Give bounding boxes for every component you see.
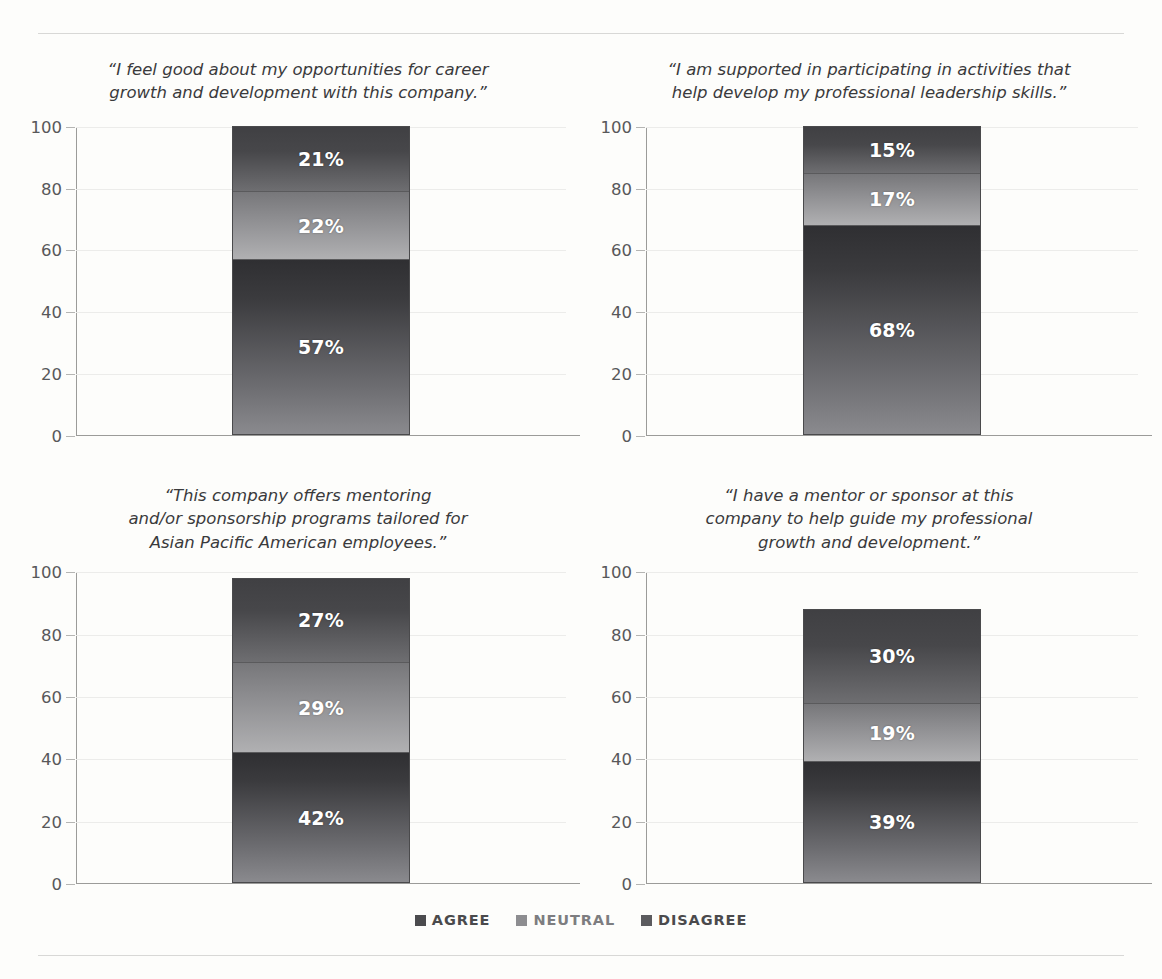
y-axis-label: 40 <box>41 303 62 322</box>
y-axis-label: 20 <box>611 812 632 831</box>
bar-segment-neutral[interactable]: 22% <box>233 191 409 259</box>
y-axis-label: 100 <box>601 563 633 582</box>
divider-bottom <box>38 955 1124 956</box>
quote-line: help develop my professional leadership … <box>659 81 1079 104</box>
quote-line: company to help guide my professional <box>659 507 1079 530</box>
y-tick <box>636 572 645 573</box>
gridline <box>76 572 566 573</box>
y-axis-label: 0 <box>622 875 633 894</box>
y-axis-label: 100 <box>601 117 633 136</box>
y-axis-label: 60 <box>41 688 62 707</box>
segment-value-agree: 39% <box>869 811 915 833</box>
y-axis-label: 20 <box>41 365 62 384</box>
y-tick <box>636 127 645 128</box>
y-tick <box>66 127 75 128</box>
y-axis-label: 60 <box>611 241 632 260</box>
bar-segment-agree[interactable]: 57% <box>233 259 409 434</box>
quote-line: “I have a mentor or sponsor at this <box>659 484 1079 507</box>
y-tick <box>66 572 75 573</box>
segment-value-neutral: 17% <box>869 188 915 210</box>
y-tick <box>636 884 645 885</box>
y-tick <box>636 822 645 823</box>
segment-value-disagree: 30% <box>869 645 915 667</box>
segment-value-neutral: 29% <box>298 697 344 719</box>
bar-segment-agree[interactable]: 68% <box>804 225 980 434</box>
segment-value-agree: 68% <box>869 319 915 341</box>
bar-segment-disagree[interactable]: 30% <box>804 610 980 703</box>
plot-area: 100 80 60 40 20 0 30% 19% 39% <box>588 564 1150 912</box>
quote-line: and/or sponsorship programs tailored for <box>88 507 508 530</box>
quote-line: growth and development with this company… <box>88 81 508 104</box>
plot-area: 100 80 60 40 20 0 15% 17% 68% <box>588 119 1150 464</box>
axes: 100 80 60 40 20 0 30% 19% 39% <box>646 572 1138 884</box>
y-axis-label: 100 <box>31 563 63 582</box>
y-tick <box>636 312 645 313</box>
chart-legend: AGREE NEUTRAL DISAGREE <box>0 912 1162 928</box>
bar-segment-neutral[interactable]: 17% <box>804 173 980 225</box>
bar-segment-neutral[interactable]: 29% <box>233 662 409 752</box>
bar-segment-agree[interactable]: 42% <box>233 752 409 882</box>
quote-line: “I feel good about my opportunities for … <box>88 58 508 81</box>
legend-swatch-icon-neutral <box>516 915 527 926</box>
stacked-bar[interactable]: 15% 17% 68% <box>803 126 981 435</box>
y-axis-line <box>76 572 77 884</box>
segment-value-disagree: 27% <box>298 609 344 631</box>
y-axis-label: 20 <box>41 812 62 831</box>
plot-area: 100 80 60 40 20 0 21% 22% 57% <box>18 119 578 464</box>
legend-label-neutral: NEUTRAL <box>533 912 615 928</box>
axes: 100 80 60 40 20 0 27% 29% 42% <box>76 572 566 884</box>
y-axis-label: 80 <box>611 625 632 644</box>
y-tick <box>636 374 645 375</box>
y-tick <box>636 635 645 636</box>
y-axis-label: 100 <box>31 117 63 136</box>
bar-segment-neutral[interactable]: 19% <box>804 703 980 762</box>
y-axis-label: 80 <box>611 179 632 198</box>
x-axis-line <box>76 435 580 436</box>
chart-panel-leadership-support: “I am supported in participating in acti… <box>588 44 1150 474</box>
quote-line: “This company offers mentoring <box>88 484 508 507</box>
y-tick <box>66 697 75 698</box>
legend-item-neutral[interactable]: NEUTRAL <box>516 912 615 928</box>
y-tick <box>66 635 75 636</box>
y-tick <box>636 759 645 760</box>
y-tick <box>66 759 75 760</box>
segment-value-agree: 57% <box>298 336 344 358</box>
bar-segment-disagree[interactable]: 15% <box>804 127 980 173</box>
axes: 100 80 60 40 20 0 15% 17% 68% <box>646 127 1138 436</box>
y-tick <box>66 189 75 190</box>
y-tick <box>66 884 75 885</box>
stacked-bar[interactable]: 30% 19% 39% <box>803 609 981 884</box>
y-axis-label: 60 <box>611 688 632 707</box>
y-tick <box>66 374 75 375</box>
legend-swatch-icon-disagree <box>641 915 652 926</box>
chart-panel-career-growth: “I feel good about my opportunities for … <box>18 44 578 474</box>
y-tick <box>636 250 645 251</box>
y-axis-label: 20 <box>611 365 632 384</box>
y-axis-label: 80 <box>41 625 62 644</box>
y-axis-line <box>646 127 647 436</box>
y-tick <box>636 436 645 437</box>
y-tick <box>636 189 645 190</box>
divider-top <box>38 33 1124 34</box>
bar-segment-disagree[interactable]: 27% <box>233 579 409 663</box>
y-tick <box>66 250 75 251</box>
x-axis-line <box>76 883 580 884</box>
segment-value-agree: 42% <box>298 807 344 829</box>
segment-value-disagree: 21% <box>298 148 344 170</box>
stacked-bar[interactable]: 27% 29% 42% <box>232 578 410 884</box>
chart-panel-mentoring-programs: “This company offers mentoring and/or sp… <box>18 480 578 930</box>
y-axis-label: 0 <box>52 875 63 894</box>
bar-segment-disagree[interactable]: 21% <box>233 127 409 191</box>
legend-swatch-icon-agree <box>415 915 426 926</box>
gridline <box>646 572 1138 573</box>
legend-item-agree[interactable]: AGREE <box>415 912 491 928</box>
segment-value-neutral: 22% <box>298 215 344 237</box>
y-axis-label: 80 <box>41 179 62 198</box>
x-axis-line <box>646 435 1152 436</box>
stacked-bar[interactable]: 21% 22% 57% <box>232 126 410 435</box>
y-axis-line <box>646 572 647 884</box>
legend-item-disagree[interactable]: DISAGREE <box>641 912 747 928</box>
y-axis-label: 60 <box>41 241 62 260</box>
bar-segment-agree[interactable]: 39% <box>804 761 980 882</box>
y-axis-label: 40 <box>611 750 632 769</box>
